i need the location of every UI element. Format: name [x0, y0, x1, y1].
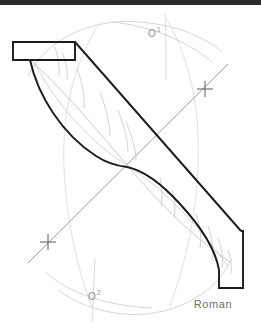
ribbon-lower-curved-edge [127, 167, 219, 270]
labels-group: O 1 O 2 [88, 26, 161, 302]
ruling-u2 [62, 52, 67, 80]
tick-lower-left [40, 234, 56, 250]
ribbon-outline [13, 42, 243, 288]
ruling-u6 [126, 122, 136, 160]
band-inner-edge-upper [30, 60, 127, 165]
drawing-canvas: O 1 O 2 Roman [0, 0, 261, 334]
ruling-u1 [55, 47, 59, 76]
ruling-l3 [196, 214, 201, 248]
tick-upper-right [197, 81, 213, 97]
top-left-notch [13, 42, 75, 60]
ruling-u5 [118, 110, 128, 152]
band-inner-edge-lower [127, 165, 230, 262]
arc-right-circle-edge [166, 18, 198, 306]
band-secondary-edge-upper [34, 62, 127, 165]
geometric-drawing: O 1 O 2 Roman [0, 0, 261, 334]
ribbon-upper-straight-edge [75, 42, 241, 231]
construction-line-o2 [92, 258, 95, 322]
label-o2: O [88, 291, 96, 302]
ribbon-upper-curved-edge [30, 60, 127, 167]
ruling-l2 [172, 190, 175, 218]
ruling-u4 [100, 92, 110, 136]
ruling-l5 [218, 238, 223, 268]
label-o1: O [148, 28, 156, 39]
label-o2-superscript: 2 [97, 289, 101, 296]
construction-line-o1 [165, 14, 166, 80]
ruling-u3 [77, 68, 84, 108]
label-o1-superscript: 1 [157, 26, 161, 33]
arc-upper-right [112, 22, 212, 62]
signature-roman: Roman [194, 298, 232, 310]
